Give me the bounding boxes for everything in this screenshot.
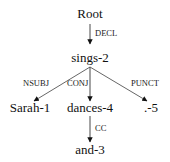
- edge-label-cc: CC: [95, 123, 107, 133]
- node-punct: .-5: [144, 100, 158, 115]
- node-and: and-3: [75, 142, 105, 157]
- edge-label-conj: CONJ: [67, 78, 89, 88]
- edge-label-nsubj: NSUBJ: [23, 78, 50, 88]
- edge-label-decl: DECL: [95, 28, 117, 38]
- node-root: Root: [77, 6, 103, 21]
- edge-label-punct: PUNCT: [131, 78, 160, 88]
- node-sarah: Sarah-1: [10, 100, 50, 115]
- dependency-tree-diagram: Root DECL sings-2 NSUBJ CONJ PUNCT Sarah…: [0, 0, 170, 162]
- node-sings: sings-2: [71, 50, 109, 65]
- node-dances: dances-4: [67, 100, 114, 115]
